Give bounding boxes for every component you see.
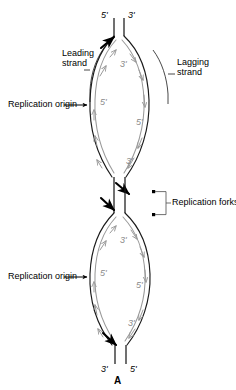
upper-bubble-5prime-left-label: 5' xyxy=(100,97,107,107)
bottom-terminal-strands xyxy=(115,345,126,364)
replication-forks-label: Replication forks xyxy=(172,197,236,207)
bottom-left-3prime-label: 3' xyxy=(101,364,108,374)
leading-strand-label: Leading strand xyxy=(62,48,94,69)
lagging-strand-bracket xyxy=(153,50,175,104)
leading-strand-label-line1: Leading xyxy=(62,48,94,58)
lower-bubble-3prime-top-left-label: 3' xyxy=(120,235,127,245)
leading-strand-label-line2: strand xyxy=(62,58,87,68)
panel-letter: A xyxy=(114,375,121,387)
replication-origin-upper-label: Replication origin xyxy=(8,99,77,109)
lagging-strand-label-line1: Lagging xyxy=(177,57,209,67)
lower-bubble-3prime-bottom-right-label: 3' xyxy=(128,318,135,328)
lower-bubble-5prime-right-label: 5' xyxy=(136,280,143,290)
replication-forks-bracket xyxy=(152,190,171,216)
lower-bubble-parental-strands xyxy=(90,213,150,345)
upper-bubble-3prime-top-left-label: 3' xyxy=(120,59,127,69)
lagging-strand-label: Lagging strand xyxy=(177,57,209,78)
top-left-5prime-label: 5' xyxy=(101,10,108,20)
lagging-strand-label-line2: strand xyxy=(177,67,202,77)
lower-bubble-5prime-left-label: 5' xyxy=(100,268,107,278)
upper-bubble-3prime-bottom-right-label: 3' xyxy=(126,156,133,166)
top-right-3prime-label: 3' xyxy=(128,10,135,20)
top-terminal-strands xyxy=(114,18,124,36)
upper-bubble-5prime-right-label: 5' xyxy=(136,117,143,127)
bottom-right-5prime-label: 5' xyxy=(130,364,137,374)
replication-origin-lower-label: Replication origin xyxy=(8,271,77,281)
